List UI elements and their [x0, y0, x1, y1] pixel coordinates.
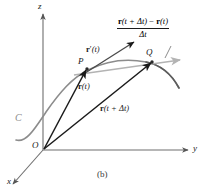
origin-label: O [32, 141, 39, 150]
dq-num-minus: − [147, 16, 156, 26]
point-q-marker [150, 60, 153, 63]
dq-num-arg2: (t) [160, 16, 168, 26]
axis-label-z: z [38, 2, 42, 11]
position-vector-rt-plus-dt-label: r(t + Δt) [100, 104, 129, 113]
position-vector-rt-label: r(t) [78, 82, 90, 91]
figure-caption: (b) [97, 170, 108, 179]
position-vector-rt-plus-dt [44, 63, 151, 149]
point-label-q: Q [146, 48, 153, 57]
difference-quotient-numerator: r(t + Δt) − r(t) [117, 17, 169, 29]
difference-quotient-label: r(t + Δt) − r(t) Δt [117, 17, 169, 40]
position-vector-rt-arg: (t) [82, 81, 90, 91]
quotient-pointer-tick [165, 46, 171, 58]
derivative-vector-label: r′(t) [86, 45, 100, 54]
curve-label-c: C [15, 113, 22, 123]
point-label-p: P [78, 57, 84, 66]
axis-label-x: x [7, 177, 11, 186]
secant-line-pq [74, 60, 180, 75]
difference-quotient-denominator: Δt [117, 29, 169, 40]
axis-x [13, 150, 43, 184]
dq-num-arg1: (t + Δt) [122, 16, 147, 26]
position-vector-rt-plus-dt-arg: (t + Δt) [104, 103, 129, 113]
vector-derivative-figure: z y x O C P Q r′(t) r(t) r(t + Δt) r(t +… [0, 0, 210, 195]
axis-label-y: y [193, 144, 197, 153]
space-curve-c-tail [146, 62, 179, 88]
figure-canvas [0, 0, 210, 195]
point-p-marker [85, 67, 88, 70]
derivative-vector-arg: (t) [92, 44, 100, 54]
